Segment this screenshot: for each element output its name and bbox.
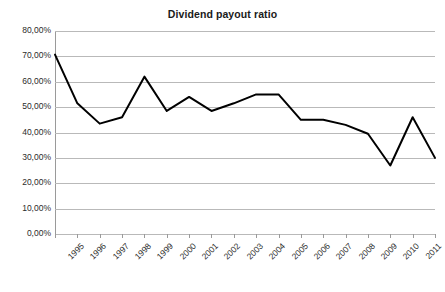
y-axis-tick-labels: 0,00%10,00%20,00%30,00%40,00%50,00%60,00… <box>0 0 51 292</box>
x-axis-tick-mark <box>346 234 347 238</box>
x-axis-tick-label: 1995 <box>66 241 86 261</box>
x-axis-tick-label: 2008 <box>356 241 376 261</box>
gridline-1000 <box>55 209 435 210</box>
x-axis-tick-mark <box>167 234 168 238</box>
x-axis-tick-label: 2009 <box>378 241 398 261</box>
x-axis-tick-mark <box>256 234 257 238</box>
x-axis-tick-label: 2011 <box>423 241 443 261</box>
x-axis-tick-label: 2005 <box>289 241 309 261</box>
x-axis-tick-mark <box>279 234 280 238</box>
gridline-5000 <box>55 107 435 108</box>
x-axis-tick-mark <box>323 234 324 238</box>
chart-container: Dividend payout ratio 0,00%10,00%20,00%3… <box>0 0 445 292</box>
x-axis-tick-mark <box>435 234 436 238</box>
x-axis-tick-label: 1997 <box>110 241 130 261</box>
y-axis-tick-label: 40,00% <box>3 128 51 137</box>
x-axis-tick-label: 2003 <box>244 241 264 261</box>
x-axis-tick-label: 2001 <box>200 241 220 261</box>
y-axis-tick-label: 20,00% <box>3 178 51 187</box>
gridline-4000 <box>55 133 435 134</box>
gridline-8000 <box>55 31 435 32</box>
x-axis-tick-mark <box>301 234 302 238</box>
y-axis-tick-label: 0,00% <box>3 229 51 238</box>
x-axis-tick-mark <box>77 234 78 238</box>
x-axis-tick-mark <box>211 234 212 238</box>
y-axis-tick-label: 70,00% <box>3 51 51 60</box>
x-axis-tick-label: 2004 <box>267 241 287 261</box>
x-axis-tick-label: 2002 <box>222 241 242 261</box>
gridline-000 <box>55 234 435 235</box>
y-axis-tick-label: 60,00% <box>3 77 51 86</box>
x-axis-tick-label: 2006 <box>311 241 331 261</box>
x-axis-tick-label: 1999 <box>155 241 175 261</box>
x-axis-tick-mark <box>368 234 369 238</box>
x-axis-tick-label: 1998 <box>133 241 153 261</box>
gridline-2000 <box>55 183 435 184</box>
y-axis-tick-label: 30,00% <box>3 153 51 162</box>
y-axis-tick-label: 80,00% <box>3 26 51 35</box>
x-axis-tick-label: 2010 <box>401 241 421 261</box>
gridline-6000 <box>55 82 435 83</box>
x-axis-tick-label: 2000 <box>177 241 197 261</box>
gridline-3000 <box>55 158 435 159</box>
x-axis-tick-mark <box>55 234 56 238</box>
x-axis-tick-mark <box>413 234 414 238</box>
x-axis-tick-label: 2007 <box>334 241 354 261</box>
y-axis-tick-label: 10,00% <box>3 204 51 213</box>
plot-area <box>55 31 435 234</box>
chart-title: Dividend payout ratio <box>0 8 445 20</box>
x-axis-tick-mark <box>100 234 101 238</box>
gridline-7000 <box>55 56 435 57</box>
x-axis-tick-mark <box>189 234 190 238</box>
x-axis-tick-mark <box>234 234 235 238</box>
y-axis-tick-label: 50,00% <box>3 102 51 111</box>
x-axis-tick-mark <box>144 234 145 238</box>
x-axis-tick-label: 1996 <box>88 241 108 261</box>
x-axis-tick-mark <box>390 234 391 238</box>
x-axis-tick-mark <box>122 234 123 238</box>
